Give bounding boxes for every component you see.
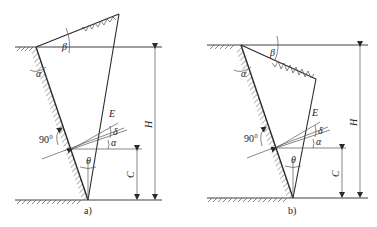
alpha-arc [313,139,314,148]
force-E-line [276,122,320,148]
alpha-arc [108,140,109,149]
label-alpha-wall: α [36,68,42,79]
label-alpha: α [111,137,117,148]
label-beta: β [61,41,67,52]
panel-a: β α E δ α 90° θ C H a) [15,14,162,217]
backfill-surface [36,14,119,47]
ground-hatch-bottom [17,200,81,204]
beta-arc [275,36,278,60]
label-theta: θ [291,154,296,165]
label-H: H [143,120,154,129]
label-delta: δ [113,126,118,137]
label-beta: β [269,47,275,58]
label-C: C [330,170,341,177]
label-E: E [108,108,115,119]
label-theta: θ [86,155,91,166]
ground-hatch-bottom [208,198,287,202]
panel-b: β α E δ α 90° θ C H b) [207,36,368,217]
ground-hatch-top-left [17,47,33,51]
wall-back-face [241,45,293,198]
caption-a: a) [84,205,92,217]
retaining-wall-figure: β α E δ α 90° θ C H a) [0,0,377,227]
label-alpha: α [316,136,322,147]
label-90deg: 90° [244,133,258,144]
backfill-zigzag [80,17,116,31]
ground-hatch-top-left [210,45,234,49]
label-delta: δ [318,125,323,136]
label-H: H [348,118,359,127]
label-C: C [125,171,136,178]
slip-plane [88,14,119,200]
label-alpha-wall: α [241,68,247,79]
label-90deg: 90° [39,134,53,145]
label-E: E [311,107,318,118]
wall-back-face [36,47,88,200]
caption-b: b) [288,205,296,217]
